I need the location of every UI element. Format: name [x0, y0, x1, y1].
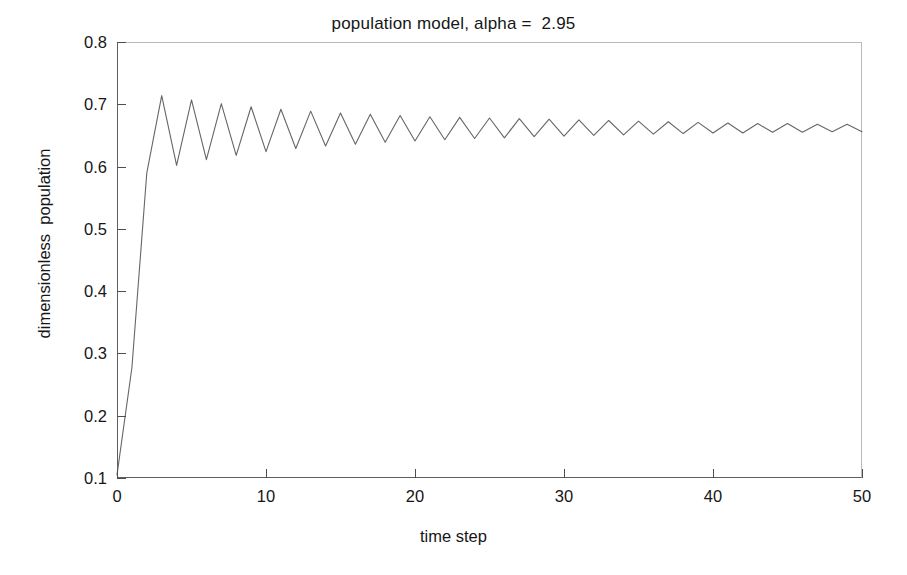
x-tick-mark [117, 469, 118, 478]
x-tick-mark [266, 469, 267, 478]
population-series-line [117, 42, 862, 478]
plot-area [117, 42, 862, 478]
x-tick-mark [862, 469, 863, 478]
x-tick-label: 40 [683, 487, 743, 506]
x-tick-label: 10 [236, 487, 296, 506]
x-tick-mark [713, 469, 714, 478]
y-tick-label: 0.2 [47, 406, 107, 425]
x-tick-label: 50 [832, 487, 892, 506]
y-tick-label: 0.1 [47, 469, 107, 488]
chart-title: population model, alpha = 2.95 [0, 14, 907, 34]
x-axis-label: time step [0, 527, 907, 546]
y-tick-mark [117, 42, 126, 43]
y-tick-label: 0.7 [47, 95, 107, 114]
chart-figure: population model, alpha = 2.95 0.10.20.3… [0, 0, 907, 575]
y-tick-mark [117, 167, 126, 168]
y-tick-mark [117, 104, 126, 105]
x-tick-mark [415, 469, 416, 478]
y-axis-label: dimensionless population [35, 94, 54, 394]
y-tick-label: 0.3 [47, 344, 107, 363]
y-tick-mark [117, 416, 126, 417]
x-tick-label: 20 [385, 487, 445, 506]
y-tick-label: 0.8 [47, 33, 107, 52]
x-tick-mark [564, 469, 565, 478]
x-tick-label: 0 [87, 487, 147, 506]
y-tick-mark [117, 478, 126, 479]
y-tick-label: 0.4 [47, 282, 107, 301]
y-tick-label: 0.5 [47, 219, 107, 238]
x-tick-label: 30 [534, 487, 594, 506]
y-tick-label: 0.6 [47, 157, 107, 176]
y-tick-mark [117, 353, 126, 354]
y-tick-mark [117, 291, 126, 292]
y-tick-mark [117, 229, 126, 230]
